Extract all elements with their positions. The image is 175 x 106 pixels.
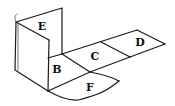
label-c: C xyxy=(91,50,100,63)
face-f-top-edge xyxy=(90,72,119,81)
face-b-left-edge xyxy=(48,40,49,91)
label-d: D xyxy=(135,36,145,49)
face-f-curved-edge xyxy=(48,81,119,100)
face-b-top-edge xyxy=(48,54,62,58)
fold-tab xyxy=(15,14,17,22)
label-e: E xyxy=(38,20,46,33)
cube-net-diagram: E B C D F xyxy=(0,0,175,106)
strip-top-edge xyxy=(62,30,137,54)
c-d-fold-line xyxy=(101,42,130,57)
face-c-d-strip xyxy=(62,30,165,72)
face-b-right-edge xyxy=(62,54,90,72)
label-b: B xyxy=(52,63,61,76)
label-f: F xyxy=(86,81,94,94)
